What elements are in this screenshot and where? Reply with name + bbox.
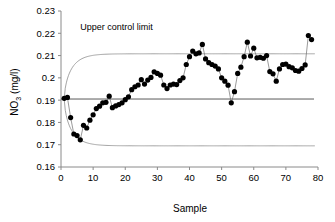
x-tick-label: 60: [248, 172, 259, 183]
data-point: [68, 115, 73, 120]
data-point: [91, 112, 96, 117]
x-tick-label: 40: [184, 172, 195, 183]
data-point: [74, 133, 79, 138]
data-point: [242, 54, 247, 59]
data-point: [306, 33, 311, 38]
data-point: [187, 54, 192, 59]
data-point: [107, 94, 112, 99]
data-point: [270, 71, 275, 76]
data-point: [277, 66, 282, 71]
data-point: [200, 42, 205, 47]
data-point: [180, 75, 185, 80]
y-tick-label: 0.17: [37, 139, 56, 150]
data-point: [84, 125, 89, 130]
data-point: [309, 37, 314, 42]
data-point: [158, 73, 163, 78]
data-point: [65, 95, 70, 100]
data-point: [251, 46, 256, 51]
data-point: [78, 137, 83, 142]
y-tick-label: 0.23: [37, 5, 56, 16]
data-point: [274, 79, 279, 84]
data-point: [139, 77, 144, 82]
data-point: [184, 62, 189, 67]
y-tick-label: 0.21: [37, 50, 56, 61]
data-point: [103, 100, 108, 105]
data-point: [245, 40, 250, 45]
data-point: [303, 62, 308, 67]
x-tick-label: 80: [313, 172, 324, 183]
x-axis-title: Sample: [173, 203, 207, 214]
y-tick-label: 0.16: [37, 161, 56, 172]
data-point: [225, 83, 230, 88]
x-tick-label: 0: [58, 172, 63, 183]
data-point: [216, 66, 221, 71]
data-point: [238, 65, 243, 70]
data-point: [229, 100, 234, 105]
upper-control-limit-label: Upper control limit: [80, 22, 153, 32]
data-point: [126, 94, 131, 99]
data-point: [148, 75, 153, 80]
data-point: [232, 89, 237, 94]
x-tick-label: 50: [216, 172, 227, 183]
data-point: [235, 71, 240, 76]
x-tick-label: 20: [120, 172, 131, 183]
x-tick-label: 70: [281, 172, 292, 183]
chart-canvas: 0.160.170.180.190.20.210.220.23 01020304…: [0, 0, 335, 222]
y-tick-label: 0.22: [37, 28, 56, 39]
y-axis-title-unit: (mg/l): [9, 68, 20, 96]
x-tick-label: 30: [152, 172, 163, 183]
data-point: [197, 50, 202, 55]
no3-control-chart: 0.160.170.180.190.20.210.220.23 01020304…: [0, 0, 335, 222]
y-tick-label: 0.19: [37, 95, 56, 106]
data-point: [264, 53, 269, 58]
y-axis-title-main: NO: [9, 100, 20, 115]
data-point: [136, 82, 141, 87]
data-point: [248, 53, 253, 58]
y-tick-label: 0.18: [37, 117, 56, 128]
x-tick-label: 10: [88, 172, 99, 183]
data-point: [87, 118, 92, 123]
y-tick-label: 0.2: [42, 72, 55, 83]
